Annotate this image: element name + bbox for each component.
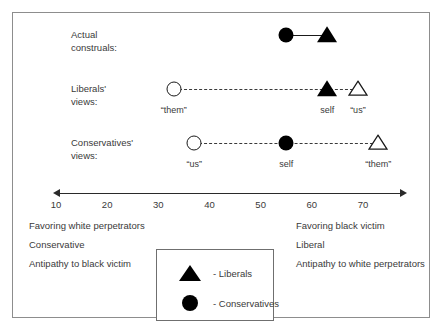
row-label-line2: construals: [71,42,117,55]
marker-triangle-filled-icon [317,26,337,42]
x-axis-left-arrowhead-icon [53,189,60,197]
legend-item-liberals: - Liberals [157,260,273,286]
pole-right-line-3: Antipathy to white perpetrators [296,258,425,269]
x-axis-tick-label: 30 [153,199,164,210]
marker-triangle-open-icon [348,80,368,96]
x-axis-tick-label: 70 [358,199,369,210]
row-label-line2: views: [71,96,106,109]
x-axis-right-arrowhead-icon [400,189,407,197]
x-axis-tick-label: 50 [255,199,266,210]
x-axis-tick-label: 10 [51,199,62,210]
row-label-liberals-views: Liberals' views: [71,83,106,108]
circle-filled-icon [179,294,201,312]
pole-left-line-2: Conservative [29,239,84,250]
marker-circle-filled-icon [279,136,294,151]
x-axis-tick-label: 40 [204,199,215,210]
row-label-conservatives-views: Conservatives' views: [71,137,133,162]
marker-circle-open-icon [187,136,202,151]
row-label-line1: Liberals' [71,83,106,96]
legend-label-liberals: - Liberals [213,268,252,279]
figure-frame: Actual construals: Liberals' views: Cons… [12,12,430,318]
x-axis-line [59,193,403,194]
marker-caption: “us” [350,105,366,115]
pole-right-line-1: Favoring black victim [296,220,385,231]
marker-caption: self [279,159,293,169]
x-axis-tick-label: 60 [307,199,318,210]
marker-caption: “us” [186,159,202,169]
marker-circle-filled-icon [279,28,294,43]
legend-item-conservatives: - Conservatives [157,290,273,316]
legend-box: - Liberals - Conservatives [156,249,274,321]
triangle-filled-icon [179,264,201,282]
marker-caption: “them” [161,105,187,115]
marker-caption: “them” [365,159,391,169]
marker-circle-open-icon [166,82,181,97]
marker-caption: self [320,105,334,115]
row-label-line1: Actual [71,29,117,42]
row-label-actual-construals: Actual construals: [71,29,117,54]
row-label-line1: Conservatives' [71,137,133,150]
pole-left-line-3: Antipathy to black victim [29,258,131,269]
pole-left-line-1: Favoring white perpetrators [29,220,145,231]
legend-label-conservatives: - Conservatives [213,298,279,309]
figure-canvas: Actual construals: Liberals' views: Cons… [0,0,440,332]
x-axis-tick-label: 20 [102,199,113,210]
pole-right-line-2: Liberal [296,239,325,250]
marker-triangle-filled-icon [317,80,337,96]
marker-triangle-open-icon [368,134,388,150]
row-label-line2: views: [71,150,133,163]
